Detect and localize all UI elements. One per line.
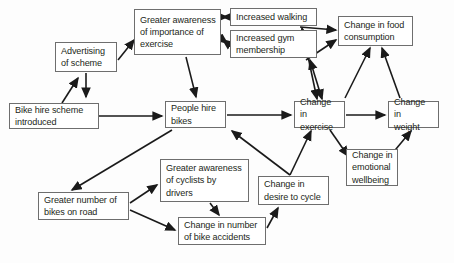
node-increased_walking[interactable]: Increased walking — [230, 8, 317, 26]
node-change_emotional[interactable]: Change in emotional wellbeing — [346, 149, 398, 186]
edge-greater_awareness_cyclists-to-change_bike_accidents — [210, 203, 219, 215]
node-people_hire_bikes[interactable]: People hire bikes — [165, 101, 226, 128]
node-increased_gym[interactable]: Increased gym membership — [230, 30, 317, 58]
node-bike_hire_scheme[interactable]: Bike hire scheme introduced — [9, 103, 99, 129]
edge-change_exercise-to-increased_gym — [310, 60, 322, 99]
node-change_food[interactable]: Change in food consumption — [338, 16, 413, 46]
node-greater_awareness_exercise[interactable]: Greater awareness of importance of exerc… — [134, 9, 221, 55]
edge-change_weight-to-change_food — [382, 48, 400, 98]
edge-change_bike_accidents-to-change_desire_cycle — [267, 208, 278, 228]
edge-greater_number_bikes-to-greater_awareness_cyclists — [130, 185, 157, 203]
edge-greater_number_bikes-to-change_bike_accidents — [130, 210, 175, 230]
diagram-canvas: Bike hire scheme introducedAdvertising o… — [0, 0, 454, 263]
node-greater_number_bikes[interactable]: Greater number of bikes on road — [38, 192, 129, 220]
node-change_exercise[interactable]: Change in exercise — [294, 101, 345, 128]
edge-greater_awareness_exercise-to-people_hire_bikes — [186, 57, 196, 97]
edge-greater_awareness_exercise-to-increased_gym — [223, 40, 227, 43]
node-change_weight[interactable]: Change in weight — [388, 101, 439, 128]
node-change_bike_accidents[interactable]: Change in number of bike accidents — [178, 217, 266, 245]
node-change_desire_cycle[interactable]: Change in desire to cycle — [258, 176, 329, 205]
edge-change_exercise-to-change_food — [345, 48, 370, 98]
node-greater_awareness_cyclists[interactable]: Greater awareness of cyclists by drivers — [160, 159, 249, 202]
node-advertising[interactable]: Advertising of scheme — [55, 42, 117, 72]
edge-change_desire_cycle-to-change_exercise — [290, 131, 311, 175]
edge-people_hire_bikes-to-greater_number_bikes — [72, 130, 172, 190]
edge-bike_hire_scheme-to-advertising — [62, 78, 78, 103]
edge-advertising-to-greater_awareness_exercise — [118, 40, 134, 60]
